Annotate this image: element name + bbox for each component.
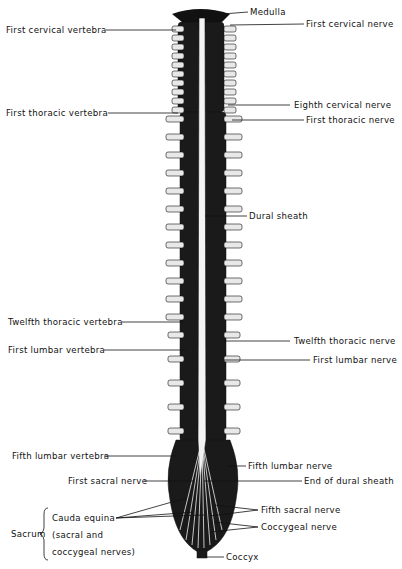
label-cauda-equina-sub1: (sacral and <box>52 530 103 540</box>
label-coccyx: Coccyx <box>226 552 259 562</box>
label-coccygeal-nerve: Coccygeal nerve <box>261 522 337 532</box>
label-sacrum: Sacrum <box>11 529 46 539</box>
label-eighth-cervical-nerve: Eighth cervical nerve <box>294 100 391 110</box>
label-first-thoracic-vertebra: First thoracic vertebra <box>6 108 108 118</box>
label-cauda-equina: Cauda equina <box>52 513 115 523</box>
label-first-cervical-vertebra: First cervical vertebra <box>6 25 107 35</box>
label-medulla: Medulla <box>250 7 286 17</box>
label-fifth-sacral-nerve: Fifth sacral nerve <box>261 505 341 515</box>
label-fifth-lumbar-nerve: Fifth lumbar nerve <box>248 461 332 471</box>
label-first-cervical-nerve: First cervical nerve <box>306 19 394 29</box>
label-first-sacral-nerve: First sacral nerve <box>68 476 147 486</box>
label-twelfth-thoracic-nerve: Twelfth thoracic nerve <box>294 336 396 346</box>
label-fifth-lumbar-vertebra: Fifth lumbar vertebra <box>12 451 109 461</box>
label-first-lumbar-vertebra: First lumbar vertebra <box>8 345 105 355</box>
label-first-lumbar-nerve: First lumbar nerve <box>313 355 397 365</box>
label-end-of-dural-sheath: End of dural sheath <box>304 476 394 486</box>
label-twelfth-thoracic-vertebra: Twelfth thoracic vertebra <box>8 317 123 327</box>
label-first-thoracic-nerve: First thoracic nerve <box>306 115 395 125</box>
label-cauda-equina-sub2: coccygeal nerves) <box>52 547 135 557</box>
label-dural-sheath: Dural sheath <box>249 211 308 221</box>
